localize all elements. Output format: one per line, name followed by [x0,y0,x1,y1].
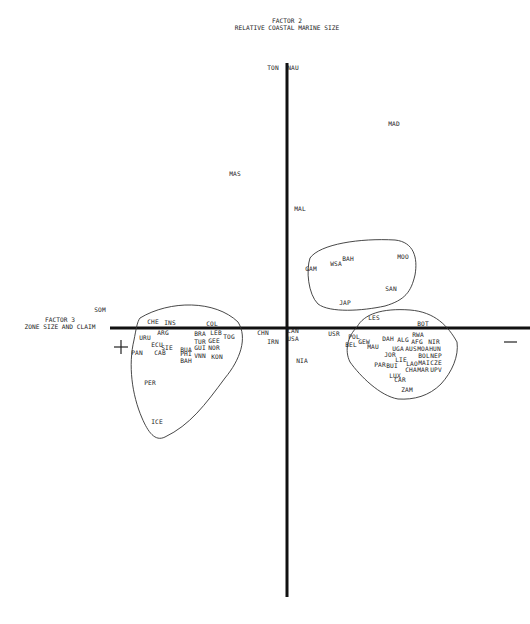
point-label-vnn: VNN [194,352,206,359]
point-label-che: CHE [147,318,159,325]
point-label-moa: MOA [417,345,429,352]
point-label-mar: MAR [417,366,429,373]
point-label-bra: BRA [194,330,206,337]
point-label-cha: CHA [405,366,417,373]
point-label-usr: USR [328,330,340,337]
point-label-per: PER [144,379,156,386]
x-axis-title-line2: ZONE SIZE AND CLAIM [25,323,96,330]
point-labels: TONNAUMADMASMALBAHWSAMOOGAMSANJAPSOMLESC… [94,64,442,425]
point-label-nau: NAU [287,64,299,71]
point-label-nia: NIA [296,357,308,364]
point-label-tog: TOG [223,333,235,340]
point-label-gui: GUI [194,344,206,351]
point-label-usa: USA [287,335,299,342]
point-label-ton: TON [267,64,279,71]
point-label-som: SOM [94,306,106,313]
point-label-can: CAN [287,327,299,334]
point-label-chn: CHN [257,329,269,336]
point-label-phi: PHI [180,350,192,357]
point-label-nor: NOR [208,344,220,351]
point-label-aus: AUS [405,345,417,352]
point-label-pan: PAN [131,349,143,356]
point-label-gam: GAM [305,265,317,272]
point-label-hun: HUN [429,345,441,352]
point-label-uru: URU [139,334,151,341]
point-label-san: SAN [385,285,397,292]
point-label-dah: DAH [382,335,394,342]
point-label-afg: AFG [411,338,423,345]
point-label-gee: GEE [208,337,220,344]
point-label-wsa: WSA [330,260,342,267]
point-label-bel: BEL [345,341,357,348]
point-label-leb: LEB [210,329,222,336]
point-label-ins: INS [164,319,176,326]
point-label-jor: JOR [384,351,396,358]
point-label-zam: ZAM [401,386,413,393]
x-axis-title-line1: FACTOR 3 [45,316,75,323]
point-label-car: CAR [394,376,406,383]
point-label-mad: MAD [388,120,400,127]
point-label-kon: KON [211,353,223,360]
point-label-mai: MAI [418,359,430,366]
point-label-alg: ALG [397,336,409,343]
point-label-bah: BAH [342,255,354,262]
point-label-bol: BOL [418,352,430,359]
point-label-nir: NIR [428,338,440,345]
point-label-ice: ICE [151,418,163,425]
point-label-nep: NEP [430,352,442,359]
factor-scatter-plot: FACTOR 2 RELATIVE COASTAL MARINE SIZE FA… [0,0,530,624]
point-label-arg: ARG [157,329,169,336]
point-label-rwa: RWA [412,331,424,338]
point-label-bui: BUI [386,362,398,369]
point-label-cze: CZE [430,359,442,366]
point-label-bah: BAH [180,357,192,364]
point-label-mau: MAU [367,343,379,350]
upper-right-cluster-outline [308,240,416,311]
point-label-irn: IRN [267,338,279,345]
point-label-moo: MOO [397,253,409,260]
y-axis-title-line2: RELATIVE COASTAL MARINE SIZE [235,24,340,31]
point-label-col: COL [206,320,218,327]
point-label-les: LES [368,314,380,321]
point-label-jap: JAP [339,299,351,306]
y-axis-title-line1: FACTOR 2 [272,17,302,24]
point-label-cab: CAB [154,349,166,356]
point-label-mal: MAL [294,205,306,212]
point-label-bot: BOT [417,320,429,327]
point-label-upv: UPV [430,366,442,373]
point-label-par: PAR [374,361,386,368]
point-label-mas: MAS [229,170,241,177]
plus-sign-icon [114,340,128,354]
